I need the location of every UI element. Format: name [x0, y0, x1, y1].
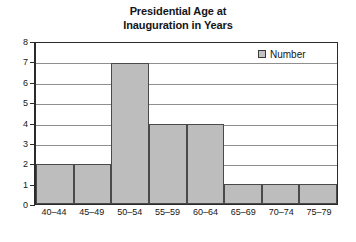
bar-slot [149, 43, 187, 204]
bar-slot [224, 43, 262, 204]
chart-title-line-1: Presidential Age at [0, 4, 356, 18]
bar-slot [74, 43, 112, 204]
y-axis-tick-label: 2 [23, 159, 28, 169]
y-axis-tick-label: 4 [23, 119, 28, 129]
y-axis-tick-label: 7 [23, 57, 28, 67]
legend-label: Number [270, 49, 306, 60]
y-axis-tick-label: 5 [23, 98, 28, 108]
bar [111, 63, 149, 204]
x-axis-tick-label: 45–49 [73, 207, 111, 217]
bar-slot [36, 43, 74, 204]
bar-slot [111, 43, 149, 204]
bar [187, 124, 225, 205]
x-axis-tick-label: 40–44 [35, 207, 73, 217]
bar-slot [299, 43, 337, 204]
bar [262, 184, 300, 204]
plot-area [35, 42, 338, 205]
chart-title: Presidential Age at Inauguration in Year… [0, 4, 356, 32]
chart-legend: Number [256, 45, 309, 63]
bar [299, 184, 337, 204]
y-axis-tick-label: 6 [23, 78, 28, 88]
y-axis-tick-label: 0 [23, 200, 28, 210]
x-axis-tick-label: 75–79 [300, 207, 338, 217]
chart-title-line-2: Inauguration in Years [0, 18, 356, 32]
y-axis-tick-label: 3 [23, 139, 28, 149]
bar-chart-figure: Presidential Age at Inauguration in Year… [0, 0, 356, 242]
x-axis-tick-label: 70–74 [262, 207, 300, 217]
bar-slot [187, 43, 225, 204]
bar [74, 164, 112, 204]
x-axis-tick-label: 50–54 [111, 207, 149, 217]
x-axis: 40–4445–4950–5455–5960–6465–6970–7475–79 [35, 207, 338, 217]
bars-layer [36, 43, 337, 204]
bar-slot [262, 43, 300, 204]
y-axis: 876543210 [0, 42, 35, 205]
bar [224, 184, 262, 204]
bar [149, 124, 187, 205]
x-axis-tick-label: 60–64 [187, 207, 225, 217]
bar [36, 164, 74, 204]
y-axis-tick-label: 1 [23, 180, 28, 190]
legend-swatch-icon [258, 50, 266, 58]
x-axis-tick-label: 55–59 [149, 207, 187, 217]
x-axis-tick-label: 65–69 [224, 207, 262, 217]
y-axis-tick-label: 8 [23, 37, 28, 47]
